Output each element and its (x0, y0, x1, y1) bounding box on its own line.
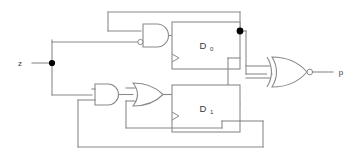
flipflop-d1-label: D (200, 103, 207, 114)
output-label-p: p (339, 68, 344, 77)
circuit-canvas: z D 0 (0, 0, 355, 158)
input-label-z: z (18, 59, 22, 68)
ff0-q-junction (237, 28, 244, 35)
and-gate-top (138, 24, 172, 47)
flipflop-d0-label: D (200, 40, 207, 51)
input-z-junction (49, 60, 55, 66)
wire-input-z (32, 40, 140, 95)
inverted-output-bubble-icon (307, 69, 313, 75)
flipflop-d0: D 0 (172, 22, 240, 69)
inverted-input-bubble-icon (138, 39, 143, 44)
logic-circuit-diagram: z D 0 (0, 0, 355, 158)
flipflop-d1: D 1 (172, 85, 240, 132)
xnor-output-gate (246, 57, 333, 87)
